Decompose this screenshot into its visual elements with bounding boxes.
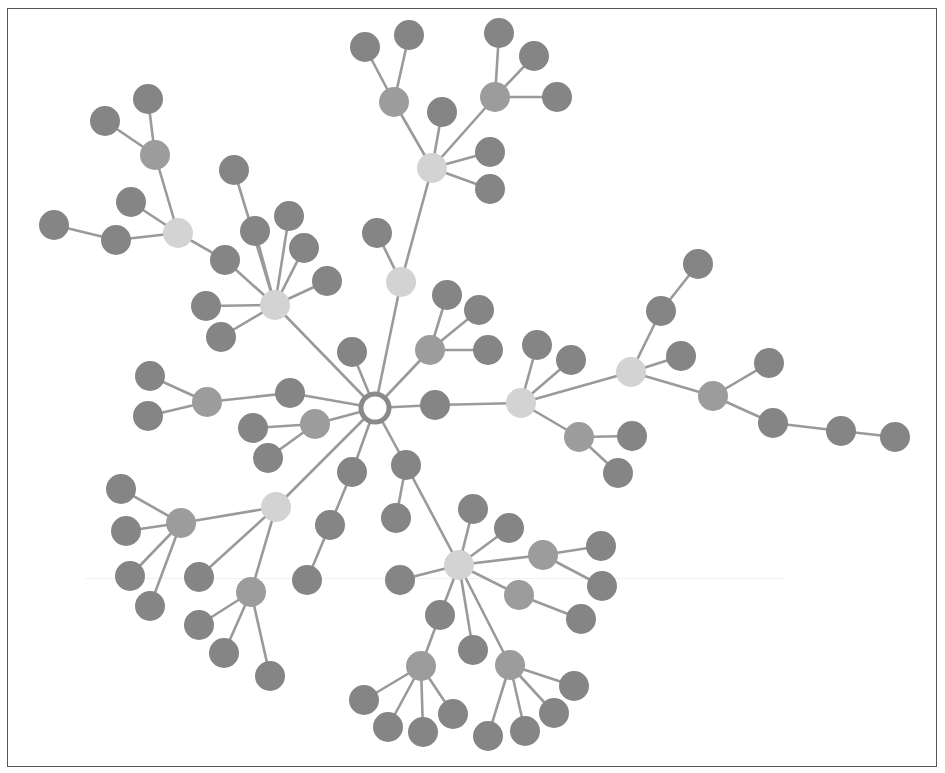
- leaf-node: [116, 187, 146, 217]
- hub-node: [260, 290, 290, 320]
- leaf-node: [292, 565, 322, 595]
- leaf-node: [408, 717, 438, 747]
- leaf-node: [337, 457, 367, 487]
- hub-node: [506, 388, 536, 418]
- leaf-node: [209, 638, 239, 668]
- leaf-node: [587, 571, 617, 601]
- hub-node: [417, 153, 447, 183]
- leaf-node: [473, 721, 503, 751]
- leaf-node: [350, 32, 380, 62]
- leaf-node: [133, 401, 163, 431]
- edge: [401, 168, 432, 282]
- leaf-node: [464, 295, 494, 325]
- mid-node: [415, 335, 445, 365]
- leaf-node: [458, 635, 488, 665]
- leaf-node: [312, 266, 342, 296]
- leaf-node: [438, 699, 468, 729]
- leaf-node: [135, 591, 165, 621]
- leaf-node: [274, 201, 304, 231]
- leaf-node: [135, 361, 165, 391]
- leaf-node: [111, 516, 141, 546]
- leaf-node: [275, 378, 305, 408]
- leaf-node: [458, 494, 488, 524]
- leaf-node: [133, 84, 163, 114]
- leaf-node: [519, 41, 549, 71]
- hub-node: [386, 267, 416, 297]
- leaf-node: [289, 233, 319, 263]
- hub-node: [261, 492, 291, 522]
- leaf-node: [826, 416, 856, 446]
- leaf-node: [522, 330, 552, 360]
- leaf-node: [646, 296, 676, 326]
- leaf-node: [473, 335, 503, 365]
- leaf-node: [556, 345, 586, 375]
- leaf-node: [191, 291, 221, 321]
- leaf-node: [115, 561, 145, 591]
- edge: [375, 282, 401, 408]
- hub-node: [163, 218, 193, 248]
- leaf-node: [542, 82, 572, 112]
- leaf-node: [253, 443, 283, 473]
- mid-node: [166, 508, 196, 538]
- leaf-node: [373, 712, 403, 742]
- leaf-node: [603, 458, 633, 488]
- mid-node: [192, 387, 222, 417]
- leaf-node: [349, 685, 379, 715]
- leaf-node: [394, 20, 424, 50]
- leaf-node: [432, 280, 462, 310]
- mid-node: [495, 650, 525, 680]
- leaf-node: [391, 450, 421, 480]
- leaf-node: [238, 413, 268, 443]
- leaf-node: [586, 531, 616, 561]
- leaf-node: [90, 106, 120, 136]
- root-node: [361, 394, 389, 422]
- network-graph: [0, 0, 945, 773]
- mid-node: [236, 577, 266, 607]
- leaf-node: [210, 245, 240, 275]
- leaf-node: [255, 661, 285, 691]
- mid-node: [698, 381, 728, 411]
- leaf-node: [420, 390, 450, 420]
- mid-node: [406, 651, 436, 681]
- leaf-node: [219, 155, 249, 185]
- leaf-node: [184, 610, 214, 640]
- leaf-node: [494, 513, 524, 543]
- leaf-node: [475, 174, 505, 204]
- mid-node: [504, 580, 534, 610]
- leaf-node: [559, 671, 589, 701]
- leaf-node: [484, 18, 514, 48]
- mid-node: [140, 140, 170, 170]
- leaf-node: [184, 562, 214, 592]
- leaf-node: [101, 225, 131, 255]
- mid-node: [528, 540, 558, 570]
- leaf-node: [425, 600, 455, 630]
- leaf-node: [362, 218, 392, 248]
- leaf-node: [337, 337, 367, 367]
- leaf-node: [566, 604, 596, 634]
- leaf-node: [106, 474, 136, 504]
- leaf-node: [510, 716, 540, 746]
- mid-node: [564, 422, 594, 452]
- mid-node: [379, 87, 409, 117]
- leaf-node: [539, 698, 569, 728]
- leaf-node: [427, 97, 457, 127]
- edge-layer: [54, 33, 895, 736]
- leaf-node: [683, 249, 713, 279]
- leaf-node: [39, 210, 69, 240]
- leaf-node: [754, 348, 784, 378]
- leaf-node: [758, 408, 788, 438]
- edge: [406, 465, 459, 565]
- leaf-node: [475, 137, 505, 167]
- hub-node: [616, 357, 646, 387]
- leaf-node: [206, 322, 236, 352]
- leaf-node: [666, 341, 696, 371]
- mid-node: [480, 82, 510, 112]
- leaf-node: [240, 216, 270, 246]
- hub-node: [444, 550, 474, 580]
- leaf-node: [617, 421, 647, 451]
- mid-node: [300, 409, 330, 439]
- leaf-node: [880, 422, 910, 452]
- leaf-node: [315, 510, 345, 540]
- leaf-node: [381, 503, 411, 533]
- leaf-node: [385, 565, 415, 595]
